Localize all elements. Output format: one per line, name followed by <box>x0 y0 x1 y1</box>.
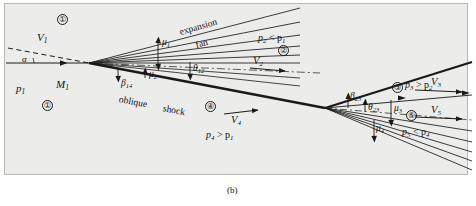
label-p4-gt-p1: p4 > p1 <box>206 130 233 141</box>
label-m1: M1 <box>56 79 69 91</box>
label-v5: V5 <box>431 105 441 117</box>
label-theta23: θ23 <box>368 103 379 113</box>
label-v3: V3 <box>431 77 441 89</box>
label-v1: V1 <box>37 32 47 44</box>
alpha-angle-arc <box>33 58 34 63</box>
label-theta12: θ12 <box>193 64 204 74</box>
region-marker-2: ② <box>278 45 289 56</box>
label-v2: V2 <box>253 56 263 68</box>
figure-caption: (b) <box>227 185 238 195</box>
region-marker-5: ⑤ <box>406 110 417 121</box>
label-mu2: μ2 <box>149 70 157 80</box>
label-v4: V4 <box>231 115 241 127</box>
region-marker-1-upper: ① <box>57 14 68 25</box>
trailing-edge-expansion-fan <box>325 108 472 170</box>
label-mu1: μ1 <box>162 38 170 48</box>
label-mu4: μ4 <box>376 124 384 134</box>
region-marker-1-lower: ① <box>42 100 53 111</box>
angle-of-attack-dashed-line <box>8 48 89 63</box>
velocity-arrow-v4 <box>224 110 258 114</box>
label-beta14: β14 <box>121 79 132 89</box>
label-p5-lt-p4: p5 < p4 <box>402 127 429 138</box>
flow-diagram-svg <box>0 0 476 206</box>
figure-container: ① V1 α p1 M1 ① μ1 expansion fan β14 μ2 θ… <box>0 0 476 206</box>
label-alpha: α <box>22 55 27 64</box>
velocity-arrow-v5 <box>415 117 462 119</box>
label-mu3: μ3 <box>394 104 402 114</box>
label-p3-gt-p2: p3 > p2 <box>405 80 432 91</box>
label-beta23: β23 <box>350 92 361 102</box>
label-p1: p1 <box>16 83 25 95</box>
region-marker-4: ④ <box>205 101 216 112</box>
label-p2-lt-p1: p2 < p1 <box>258 33 285 44</box>
region-marker-3: ③ <box>392 82 403 93</box>
